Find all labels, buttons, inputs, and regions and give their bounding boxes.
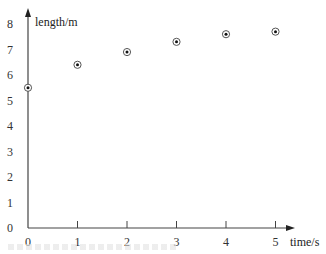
scatter-chart: 012345678 012345 length/m time/s bbox=[0, 0, 326, 254]
data-point bbox=[222, 31, 229, 38]
data-point bbox=[173, 38, 180, 45]
x-axis-label: time/s bbox=[290, 235, 320, 249]
data-point bbox=[24, 84, 31, 91]
data-points bbox=[24, 28, 279, 91]
data-point bbox=[74, 61, 81, 68]
y-tick-label: 6 bbox=[7, 68, 13, 82]
y-tick-label: 1 bbox=[7, 196, 13, 210]
x-tick-label: 5 bbox=[273, 235, 279, 249]
x-axis bbox=[28, 225, 295, 231]
data-point bbox=[272, 28, 279, 35]
y-tick-label: 2 bbox=[7, 170, 13, 184]
y-tick-label: 3 bbox=[7, 145, 13, 159]
x-tick-label: 4 bbox=[223, 235, 229, 249]
y-axis-label: length/m bbox=[35, 15, 78, 29]
y-axis bbox=[25, 8, 31, 228]
y-tick-label: 4 bbox=[7, 119, 13, 133]
y-tick-label: 0 bbox=[7, 221, 13, 235]
y-tick-labels: 012345678 bbox=[7, 17, 13, 235]
y-tick-label: 8 bbox=[7, 17, 13, 31]
data-point bbox=[123, 48, 130, 55]
y-axis-arrow-icon bbox=[25, 8, 31, 17]
y-tick-label: 5 bbox=[7, 94, 13, 108]
figure-caption-illegible bbox=[8, 244, 178, 250]
x-axis-arrow-icon bbox=[286, 225, 295, 231]
y-tick-label: 7 bbox=[7, 43, 13, 57]
